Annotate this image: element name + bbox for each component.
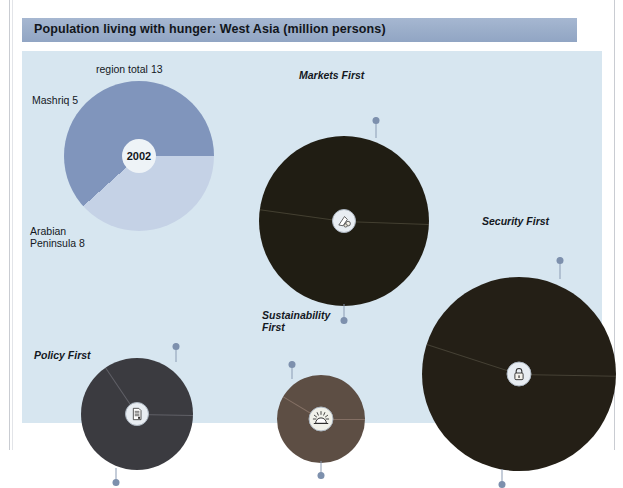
label-security-first: Security First: [482, 215, 549, 227]
pin-marker-policy-bottom: [112, 468, 120, 486]
figure-panel: Population living with hunger: West Asia…: [22, 18, 602, 430]
arabian-name-line1: Arabian: [30, 225, 66, 237]
label-markets-first: Markets First: [299, 69, 364, 81]
baseline-year-label: 2002: [127, 150, 151, 162]
pin-marker-sustainability-bottom: [317, 461, 325, 479]
pin-marker-sustainability-top: [288, 361, 296, 379]
mashriq-value: 5: [72, 94, 78, 106]
baseline-donut-2002[interactable]: 2002: [64, 81, 214, 231]
arabian-value: 8: [79, 237, 85, 249]
bubble-segment-line: [427, 344, 520, 375]
padlock-icon: [507, 362, 532, 387]
page-gutter-rule-left: [9, 0, 10, 450]
label-policy-first: Policy First: [34, 349, 91, 361]
bubble-segment-line: [519, 374, 616, 377]
label-sustainability-line2: First: [262, 321, 285, 333]
region-total-name: region total: [96, 63, 148, 75]
pin-marker-markets-top: [372, 117, 380, 138]
arabian-name-line2: Peninsula: [30, 237, 76, 249]
pin-marker-policy-top: [172, 343, 180, 362]
figure-header-bar: Population living with hunger: West Asia…: [22, 18, 577, 42]
bubble-markets-first[interactable]: [259, 136, 429, 306]
bubble-policy-first[interactable]: [81, 358, 193, 470]
region-total-value: 13: [151, 63, 163, 75]
document-icon: [125, 402, 149, 426]
baseline-year-hole: 2002: [122, 139, 156, 173]
page-gutter-rule-left-2: [12, 0, 13, 450]
pin-marker-security-top: [556, 257, 564, 279]
sunrise-icon: [309, 407, 334, 432]
pin-marker-security-bottom: [498, 469, 506, 488]
mashriq-name: Mashriq: [32, 94, 69, 106]
pin-marker-markets-bottom: [340, 304, 348, 324]
figure-plot-area: 2002 region total 13 Mashriq 5 Arabian P…: [22, 51, 602, 423]
bubble-security-first[interactable]: [422, 277, 616, 471]
arabian-peninsula-label: Arabian Peninsula 8: [30, 225, 126, 250]
label-sustainability-line1: Sustainability: [262, 309, 330, 321]
bubble-segment-line: [344, 221, 429, 225]
bubble-sustainability-first[interactable]: [277, 375, 365, 463]
region-total-label: region total 13: [96, 63, 163, 75]
coins-hand-icon: [332, 209, 356, 233]
figure-title: Population living with hunger: West Asia…: [34, 22, 386, 36]
mashriq-label: Mashriq 5: [32, 94, 78, 106]
